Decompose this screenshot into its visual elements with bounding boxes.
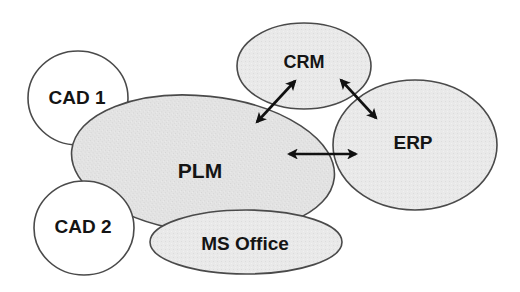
plm-label: PLM: [178, 159, 222, 182]
node-msoffice: MS Office: [150, 210, 342, 274]
erp-label: ERP: [393, 132, 432, 153]
node-cad2: CAD 2: [34, 181, 134, 275]
cad2-label: CAD 2: [54, 216, 111, 237]
node-crm: CRM: [237, 23, 371, 109]
cad1-label: CAD 1: [48, 87, 105, 108]
crm-label: CRM: [284, 52, 325, 72]
msoffice-label: MS Office: [201, 233, 289, 254]
integration-diagram: CAD 1 CRM ERP PLM CAD 2 MS Office: [0, 0, 520, 292]
